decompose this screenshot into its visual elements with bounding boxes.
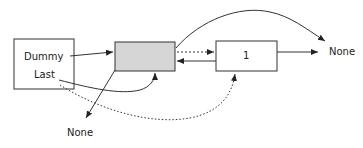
- dummy-label: Dummy: [24, 51, 63, 62]
- sentinel-node-box: [115, 42, 175, 71]
- sentinel-to-none-arrow: [86, 70, 115, 118]
- none-bottom-label: None: [67, 127, 93, 138]
- last-label: Last: [34, 69, 55, 80]
- node-1-value: 1: [243, 50, 249, 61]
- none-right-label: None: [329, 46, 355, 57]
- last-to-node1-dotted: [60, 74, 235, 120]
- dummy-to-sentinel-arrow: [70, 52, 113, 56]
